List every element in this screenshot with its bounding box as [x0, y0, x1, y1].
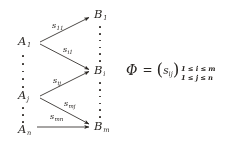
index-ranges: 1 ≤ i ≤ m 1 ≤ j ≤ n: [181, 65, 215, 81]
node-label-b-m: Bm: [94, 121, 109, 133]
index-range-j: 1 ≤ j ≤ n: [181, 74, 215, 82]
arrow-label-smn: smn: [50, 112, 63, 121]
node-label-b-i: Bi: [94, 65, 105, 77]
arrow-label-s11: s11: [52, 21, 63, 30]
arrow-line-a1-b1: [40, 18, 89, 43]
open-paren: (: [157, 61, 164, 78]
node-label-b-1: B1: [94, 9, 107, 21]
matrix-definition-formula: Φ = ( sij ) 1 ≤ i ≤ m 1 ≤ j ≤ n: [126, 61, 215, 78]
ellipsis-domain-lower: [22, 107, 24, 123]
node-label-a-1: A1: [18, 36, 31, 48]
close-paren: ): [173, 61, 180, 78]
arrow-label-smj: smj: [64, 99, 75, 108]
arrow-label-si1: si1: [63, 45, 73, 54]
matrix-entry: sij: [163, 64, 173, 76]
ellipsis-codomain-lower: [99, 82, 101, 118]
ellipsis-codomain-upper: [99, 26, 101, 62]
index-range-i: 1 ≤ i ≤ m: [181, 65, 215, 73]
phi-symbol: Φ: [126, 62, 137, 78]
arrow-line-aj-bi: [40, 72, 89, 97]
ellipsis-domain-upper: [22, 55, 24, 88]
equals-sign: =: [142, 63, 152, 77]
arrow-label-sij: sij: [53, 76, 61, 85]
node-label-a-j: Aj: [18, 90, 29, 102]
mapping-diagram-figure: A1 Aj An B1 Bi Bm s11 si1 sij smj smn: [0, 0, 225, 145]
node-label-a-n: An: [18, 124, 31, 136]
